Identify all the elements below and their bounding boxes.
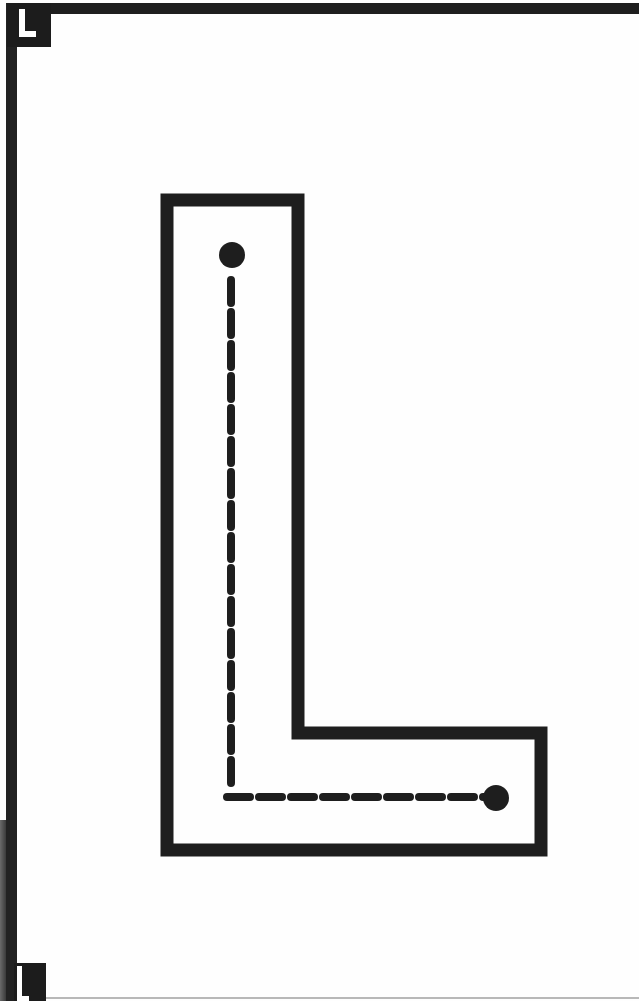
trace-start-dot [219, 242, 245, 268]
worksheet-page: L L [0, 0, 639, 1001]
trace-end-dot [483, 785, 509, 811]
letter-l-outline [167, 200, 541, 850]
letter-l-tracing-figure [0, 0, 639, 1001]
